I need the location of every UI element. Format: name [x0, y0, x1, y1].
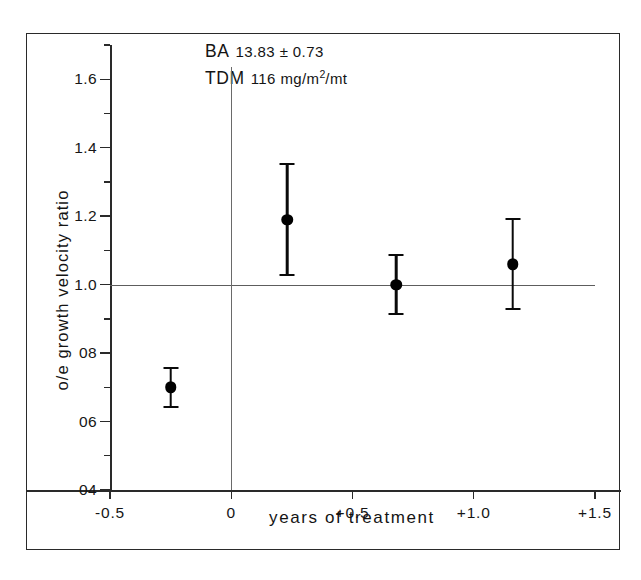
- y-tick-label: 06: [79, 413, 97, 431]
- data-point-marker: [281, 214, 293, 226]
- error-bar-cap-lower: [163, 406, 178, 408]
- x-tick-label: +1.0: [457, 504, 491, 522]
- y-axis-title: o/e growth velocity ratio: [53, 190, 72, 391]
- y-tick-minor: [104, 387, 110, 388]
- data-point-marker: [507, 258, 519, 270]
- x-tick-label: +1.5: [578, 504, 612, 522]
- reference-line-horizontal: [110, 285, 595, 286]
- error-bar-cap-lower: [389, 313, 404, 315]
- x-tick: [231, 490, 232, 499]
- y-tick-label: 1.0: [74, 276, 97, 294]
- y-tick-label: 1.2: [74, 207, 97, 225]
- data-point-marker: [390, 279, 402, 291]
- y-tick-major: [100, 215, 110, 216]
- data-point-marker: [165, 382, 177, 394]
- y-tick-major: [100, 421, 110, 422]
- x-tick: [594, 490, 595, 499]
- y-tick-label: 1.4: [74, 139, 97, 157]
- y-tick-minor: [104, 455, 110, 456]
- y-axis-line: [110, 45, 112, 490]
- y-tick-major: [100, 79, 110, 80]
- x-tick: [109, 490, 110, 499]
- y-tick-minor: [104, 250, 110, 251]
- plot-area: 1.61.41.21.0080604-0.50+0.5+1.0+1.5: [110, 45, 595, 490]
- x-tick-label: 0: [227, 504, 236, 522]
- error-bar-cap-upper: [280, 163, 295, 165]
- y-tick-label: 08: [79, 344, 97, 362]
- y-tick-major: [100, 147, 110, 148]
- y-tick-label: 04: [79, 481, 97, 499]
- y-tick-major: [100, 284, 110, 285]
- x-tick: [352, 490, 353, 499]
- y-tick-minor: [104, 44, 110, 45]
- error-bar-cap-lower: [280, 274, 295, 276]
- y-tick-minor: [104, 318, 110, 319]
- error-bar-cap-upper: [389, 254, 404, 256]
- error-bar-cap-upper: [163, 367, 178, 369]
- x-tick-label: +0.5: [336, 504, 370, 522]
- reference-line-vertical: [231, 67, 232, 490]
- x-tick-label: -0.5: [95, 504, 125, 522]
- x-axis-line: [26, 490, 621, 492]
- error-bar-cap-upper: [505, 218, 520, 220]
- y-tick-minor: [104, 113, 110, 114]
- figure-container: BA13.83 ± 0.73 TDM116 mg/m2/mt o/e growt…: [0, 0, 641, 580]
- y-tick-major: [100, 352, 110, 353]
- y-tick-minor: [104, 181, 110, 182]
- y-tick-label: 1.6: [74, 70, 97, 88]
- error-bar-cap-lower: [505, 308, 520, 310]
- x-tick: [473, 490, 474, 499]
